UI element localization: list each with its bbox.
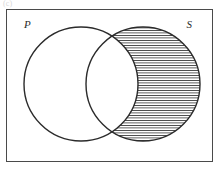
set-p-label: P bbox=[23, 18, 31, 30]
venn-diagram-canvas: P S bbox=[0, 0, 221, 170]
set-s-label: S bbox=[187, 18, 193, 30]
venn-figure: (c) bbox=[0, 0, 221, 170]
